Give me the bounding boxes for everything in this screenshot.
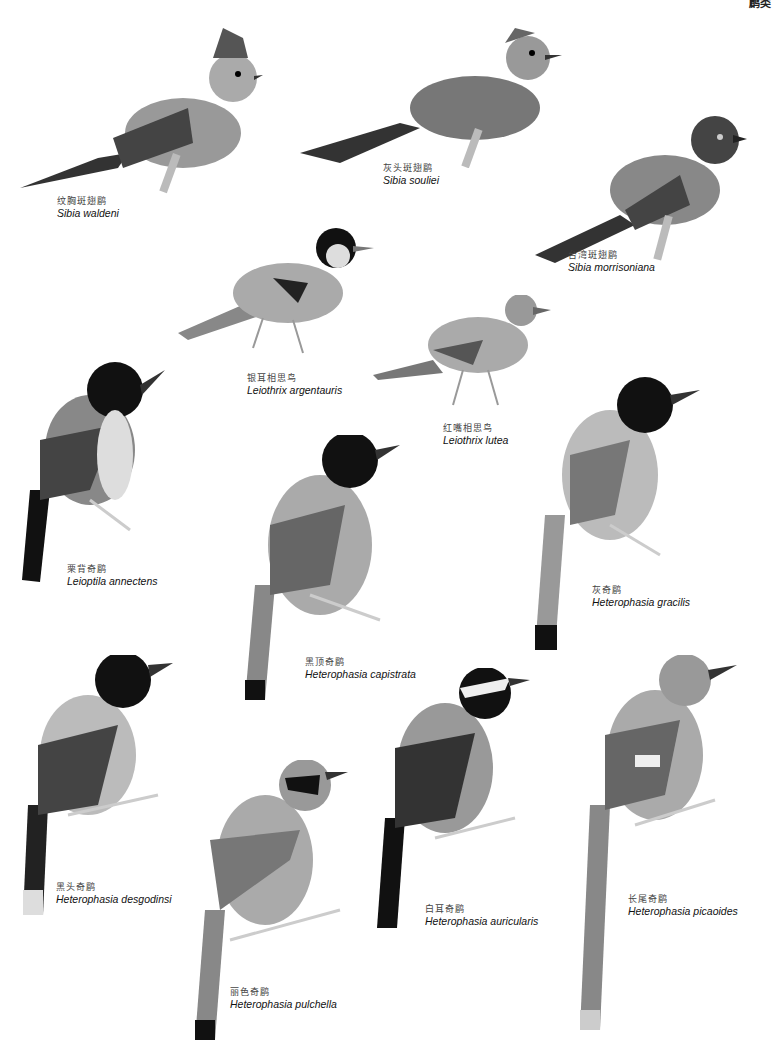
species-chinese-name: 银耳相思鸟: [247, 373, 342, 384]
bird-illustration-heterophasia-auricularis: [375, 668, 535, 933]
bird-illustration-leiothrix-lutea: [373, 295, 553, 410]
species-chinese-name: 长尾奇鹛: [628, 894, 738, 905]
species-label: 黑头奇鹛 Heterophasia desgodinsi: [56, 882, 172, 906]
species-scientific-name: Heterophasia picaoides: [628, 905, 738, 918]
page-header-fragment: 鹛类: [749, 0, 771, 10]
species-chinese-name: 栗背奇鹛: [67, 564, 158, 575]
species-scientific-name: Heterophasia auricularis: [425, 915, 538, 928]
species-scientific-name: Heterophasia desgodinsi: [56, 893, 172, 906]
species-scientific-name: Sibia waldeni: [57, 207, 119, 220]
species-chinese-name: 黑顶奇鹛: [305, 657, 416, 668]
species-scientific-name: Leiothrix lutea: [443, 434, 508, 447]
bird-illustration-heterophasia-picaoides: [575, 655, 740, 1035]
species-label: 台湾斑翅鹛 Sibia morrisoniana: [568, 250, 655, 274]
bird-illustration-leioptila-annectens: [20, 360, 170, 585]
species-scientific-name: Sibia souliei: [383, 174, 439, 187]
bird-illustration-sibia-morrisoniana: [535, 115, 750, 265]
species-label: 红嘴相思鸟 Leiothrix lutea: [443, 423, 508, 447]
bird-illustration-sibia-souliei: [300, 28, 565, 168]
species-chinese-name: 红嘴相思鸟: [443, 423, 508, 434]
species-chinese-name: 灰奇鹛: [592, 585, 690, 596]
species-label: 银耳相思鸟 Leiothrix argentauris: [247, 373, 342, 397]
species-label: 长尾奇鹛 Heterophasia picaoides: [628, 894, 738, 918]
species-label: 白耳奇鹛 Heterophasia auricularis: [425, 904, 538, 928]
species-label: 灰头斑翅鹛 Sibia souliei: [383, 163, 439, 187]
species-label: 灰奇鹛 Heterophasia gracilis: [592, 585, 690, 609]
species-scientific-name: Heterophasia capistrata: [305, 668, 416, 681]
species-label: 纹胸斑翅鹛 Sibia waldeni: [57, 196, 119, 220]
species-chinese-name: 丽色奇鹛: [230, 987, 337, 998]
bird-illustration-heterophasia-gracilis: [530, 375, 705, 655]
species-label: 黑顶奇鹛 Heterophasia capistrata: [305, 657, 416, 681]
species-scientific-name: Leioptila annectens: [67, 575, 158, 588]
bird-illustration-leiothrix-argentauris: [178, 228, 378, 358]
species-scientific-name: Heterophasia gracilis: [592, 596, 690, 609]
species-chinese-name: 台湾斑翅鹛: [568, 250, 655, 261]
species-chinese-name: 白耳奇鹛: [425, 904, 538, 915]
bird-illustration-heterophasia-desgodinsi: [18, 655, 178, 920]
species-chinese-name: 灰头斑翅鹛: [383, 163, 439, 174]
species-chinese-name: 黑头奇鹛: [56, 882, 172, 893]
species-label: 丽色奇鹛 Heterophasia pulchella: [230, 987, 337, 1011]
species-scientific-name: Leiothrix argentauris: [247, 384, 342, 397]
species-label: 栗背奇鹛 Leioptila annectens: [67, 564, 158, 588]
species-chinese-name: 纹胸斑翅鹛: [57, 196, 119, 207]
species-scientific-name: Heterophasia pulchella: [230, 998, 337, 1011]
species-scientific-name: Sibia morrisoniana: [568, 261, 655, 274]
bird-illustration-sibia-waldeni: [18, 28, 263, 198]
